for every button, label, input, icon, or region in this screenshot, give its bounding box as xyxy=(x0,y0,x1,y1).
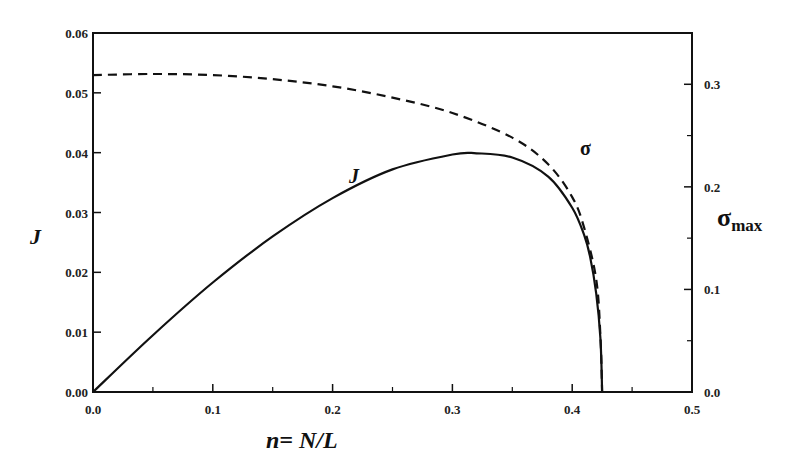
y-tick-label: 0.00 xyxy=(65,385,88,400)
y-tick-label: 0.05 xyxy=(65,86,88,101)
y-tick-label: 0.04 xyxy=(65,146,88,161)
x-tick-label: 0.5 xyxy=(684,402,701,417)
y2-tick-label: 0.0 xyxy=(704,385,720,400)
x-tick-label: 0.0 xyxy=(85,402,101,417)
curve-label-J: J xyxy=(348,165,360,187)
chart: 0.00.10.20.30.40.5 0.000.010.020.030.040… xyxy=(0,0,802,474)
y-axis-right-ticks: 0.00.10.20.3 xyxy=(684,77,721,400)
curve-label-sigma: σ xyxy=(580,137,591,159)
x-tick-label: 0.1 xyxy=(205,402,221,417)
plot-frame xyxy=(93,33,692,392)
x-tick-label: 0.2 xyxy=(324,402,340,417)
y2-tick-label: 0.3 xyxy=(704,77,721,92)
y-tick-label: 0.01 xyxy=(65,325,88,340)
y-tick-label: 0.06 xyxy=(65,26,88,41)
y-axis-left-ticks: 0.000.010.020.030.040.050.06 xyxy=(65,26,101,400)
y-tick-label: 0.03 xyxy=(65,206,88,221)
x-axis-ticks: 0.00.10.20.30.40.5 xyxy=(85,384,701,417)
y-tick-label: 0.02 xyxy=(65,265,88,280)
y-axis-title: J xyxy=(29,224,42,249)
curve-sigma xyxy=(93,74,602,392)
x-tick-label: 0.3 xyxy=(444,402,461,417)
y2-axis-title: σmax xyxy=(717,203,763,235)
x-tick-label: 0.4 xyxy=(564,402,581,417)
x-axis-title: n= N/L xyxy=(266,427,338,453)
y2-tick-label: 0.1 xyxy=(704,282,720,297)
y2-tick-label: 0.2 xyxy=(704,180,720,195)
curve-J xyxy=(93,153,602,392)
